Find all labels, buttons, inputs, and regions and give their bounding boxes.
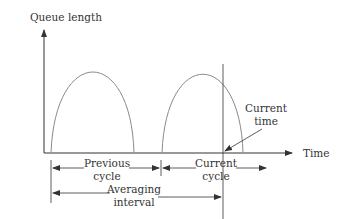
queue-curve-previous-cycle [51, 72, 134, 153]
current-cycle-label-line1: Current [195, 157, 238, 169]
queue-averaging-diagram: Queue length Time Current time Previous … [0, 0, 347, 219]
previous-cycle-label-line1: Previous [84, 157, 130, 169]
averaging-interval-label-line2: interval [113, 196, 155, 208]
current-cycle-label-line2: cycle [202, 170, 229, 182]
current-time-label-line2: time [254, 115, 278, 127]
y-axis-label: Queue length [30, 11, 102, 23]
current-time-pointer-arrow [225, 129, 262, 151]
averaging-interval-label-line1: Averaging [106, 183, 161, 195]
current-time-label-line1: Current [245, 102, 288, 114]
previous-cycle-label-line2: cycle [93, 170, 120, 182]
x-axis-label: Time [303, 147, 330, 159]
queue-curve-current-cycle [162, 74, 243, 153]
